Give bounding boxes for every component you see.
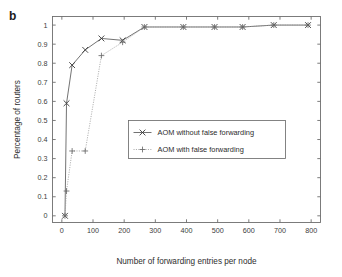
- y-tick-label: 0.9: [38, 40, 48, 49]
- legend-label: AOM without false forwarding: [158, 128, 255, 137]
- data-point: [99, 53, 105, 59]
- axis-titles: Number of forwarding entries per nodePer…: [13, 80, 257, 266]
- figure-panel: b 0100200300400500600700800 00.10.20.30.…: [0, 0, 342, 277]
- x-axis-title: Number of forwarding entries per node: [116, 257, 257, 266]
- x-tick-label: 600: [243, 226, 255, 235]
- y-tick-label: 0.3: [38, 154, 48, 163]
- y-tick-label: 0: [44, 211, 48, 220]
- y-tick-label: 0.1: [38, 192, 48, 201]
- x-tick-label: 800: [305, 226, 317, 235]
- y-tick-label: 0.2: [38, 173, 48, 182]
- chart-legend: AOM without false forwardingAOM with fal…: [129, 121, 286, 159]
- x-tick-label: 700: [274, 226, 286, 235]
- plot-frame: [53, 17, 321, 223]
- x-tick-label: 400: [181, 226, 193, 235]
- data-point: [69, 148, 75, 154]
- x-tick-label: 500: [212, 226, 224, 235]
- y-tick-label: 0.6: [38, 97, 48, 106]
- x-tick-label: 200: [118, 226, 130, 235]
- x-tick-label: 300: [149, 226, 161, 235]
- y-tick-label: 0.5: [38, 116, 48, 125]
- x-tick-label: 100: [87, 226, 99, 235]
- chart-canvas: 0100200300400500600700800 00.10.20.30.40…: [0, 0, 342, 277]
- data-point: [82, 47, 88, 53]
- data-point: [82, 148, 88, 154]
- y-tick-label: 0.7: [38, 78, 48, 87]
- plot-box: [53, 17, 321, 223]
- y-tick-label: 1: [44, 21, 48, 30]
- x-tick-label: 0: [60, 226, 64, 235]
- legend-label: AOM with false forwarding: [158, 145, 244, 154]
- y-tick-label: 0.4: [38, 135, 48, 144]
- y-tick-label: 0.8: [38, 59, 48, 68]
- y-axis-title: Percentage of routers: [13, 80, 22, 159]
- data-point: [64, 188, 70, 194]
